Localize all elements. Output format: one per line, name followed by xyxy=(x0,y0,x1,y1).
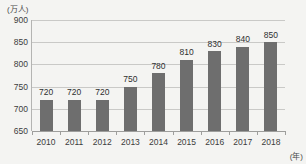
x-axis-tick xyxy=(285,131,286,135)
x-axis-tick xyxy=(201,131,202,135)
bars-group: 720720720750780810830840850 xyxy=(32,20,285,131)
bar-value-label: 840 xyxy=(236,35,250,44)
x-axis-tick-label: 2015 xyxy=(173,138,201,147)
x-axis-tick xyxy=(32,131,33,135)
bar[interactable] xyxy=(124,87,137,131)
bar-value-label: 720 xyxy=(67,88,81,97)
x-axis-tick xyxy=(116,131,117,135)
x-axis-tick-label: 2010 xyxy=(32,138,60,147)
x-axis-tick-label: 2013 xyxy=(116,138,144,147)
y-axis-tick-label: 800 xyxy=(14,60,28,69)
x-axis-tick-label: 2014 xyxy=(144,138,172,147)
x-axis-tick-label: 2018 xyxy=(257,138,285,147)
y-axis-tick-label: 650 xyxy=(14,127,28,136)
bar-value-label: 780 xyxy=(151,62,165,71)
bar-slot: 830 xyxy=(201,20,229,131)
bar[interactable] xyxy=(180,60,193,131)
bar-slot: 750 xyxy=(116,20,144,131)
bar-value-label: 750 xyxy=(123,75,137,84)
bar-value-label: 850 xyxy=(264,31,278,40)
x-axis-tick-label: 2011 xyxy=(60,138,88,147)
bar-slot: 840 xyxy=(229,20,257,131)
bar[interactable] xyxy=(96,100,109,131)
x-axis-tick-label: 2016 xyxy=(201,138,229,147)
bar[interactable] xyxy=(208,51,221,131)
bar-value-label: 810 xyxy=(180,48,194,57)
y-axis-tick-label: 700 xyxy=(14,105,28,114)
bar-slot: 850 xyxy=(257,20,285,131)
bar-slot: 720 xyxy=(32,20,60,131)
y-axis-tick-label: 750 xyxy=(14,83,28,92)
x-axis-tick xyxy=(144,131,145,135)
x-axis-line xyxy=(32,131,285,132)
bar[interactable] xyxy=(152,73,165,131)
bar-value-label: 830 xyxy=(208,40,222,49)
plot-area: 650700750800850900 720720720750780810830… xyxy=(32,20,285,131)
x-axis-tick-labels: 201020112012201320142015201620172018 xyxy=(32,138,285,147)
bar-slot: 720 xyxy=(60,20,88,131)
x-axis-tick xyxy=(173,131,174,135)
x-axis-tick xyxy=(257,131,258,135)
x-axis-tick xyxy=(88,131,89,135)
x-axis-tick-label: 2017 xyxy=(229,138,257,147)
x-axis-tick xyxy=(60,131,61,135)
bar[interactable] xyxy=(68,100,81,131)
bar-chart: (万人) 650700750800850900 7207207207507808… xyxy=(0,0,306,164)
bar-value-label: 720 xyxy=(95,88,109,97)
bar[interactable] xyxy=(264,42,277,131)
y-axis-tick-label: 900 xyxy=(14,16,28,25)
bar[interactable] xyxy=(236,47,249,131)
bar-slot: 720 xyxy=(88,20,116,131)
bar[interactable] xyxy=(40,100,53,131)
bar-slot: 810 xyxy=(173,20,201,131)
x-axis-tick xyxy=(229,131,230,135)
x-axis-tick-label: 2012 xyxy=(88,138,116,147)
y-axis-tick-label: 850 xyxy=(14,38,28,47)
bar-value-label: 720 xyxy=(39,88,53,97)
bar-slot: 780 xyxy=(144,20,172,131)
y-axis-unit-label: (万人) xyxy=(7,3,28,14)
x-axis-unit-label: (年) xyxy=(290,150,303,161)
